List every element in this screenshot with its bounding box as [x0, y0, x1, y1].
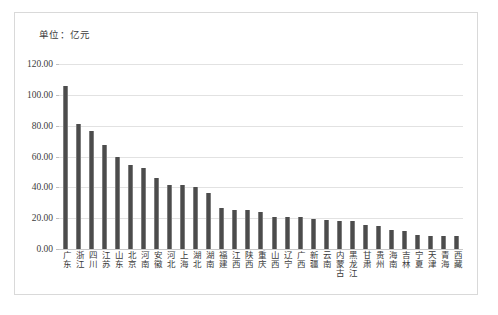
- bar[interactable]: [454, 236, 459, 249]
- x-axis-label: 上海: [179, 251, 188, 269]
- x-axis-label: 吉林: [400, 251, 409, 269]
- bar[interactable]: [206, 193, 211, 249]
- x-label-slot: 河南: [137, 251, 150, 269]
- x-label-slot: 青海: [437, 251, 450, 269]
- bar-slot: [202, 64, 215, 249]
- bar-series: [59, 64, 463, 249]
- bar[interactable]: [245, 210, 250, 249]
- bar[interactable]: [102, 145, 107, 249]
- bar-slot: [294, 64, 307, 249]
- bar-slot: [333, 64, 346, 249]
- bar[interactable]: [363, 225, 368, 249]
- x-axis-label: 广东: [61, 251, 70, 269]
- y-tick-label: 20.00: [0, 213, 58, 223]
- bar[interactable]: [311, 219, 316, 249]
- y-tick-label: 80.00: [0, 121, 58, 131]
- bar[interactable]: [63, 86, 68, 249]
- bar[interactable]: [193, 187, 198, 249]
- bar-slot: [359, 64, 372, 249]
- unit-label: 单位：亿元: [39, 27, 91, 41]
- x-label-slot: 宁夏: [411, 251, 424, 269]
- bar-slot: [307, 64, 320, 249]
- bar[interactable]: [128, 165, 133, 249]
- bar[interactable]: [258, 212, 263, 249]
- bar-slot: [398, 64, 411, 249]
- bar-slot: [59, 64, 72, 249]
- bar[interactable]: [76, 124, 81, 249]
- bar[interactable]: [324, 220, 329, 249]
- x-label-slot: 江苏: [98, 251, 111, 269]
- x-label-slot: 四川: [85, 251, 98, 269]
- bar[interactable]: [350, 221, 355, 249]
- bar-slot: [72, 64, 85, 249]
- x-label-slot: 湖南: [202, 251, 215, 269]
- x-label-slot: 甘肃: [359, 251, 372, 269]
- bar-slot: [424, 64, 437, 249]
- bar-slot: [111, 64, 124, 249]
- y-tick-label: 40.00: [0, 182, 58, 192]
- bar[interactable]: [115, 157, 120, 249]
- x-label-slot: 新疆: [307, 251, 320, 269]
- x-axis-label: 湖南: [205, 251, 214, 269]
- x-label-slot: 天津: [424, 251, 437, 269]
- x-label-slot: 山西: [268, 251, 281, 269]
- bar[interactable]: [180, 185, 185, 249]
- x-axis-label: 广西: [296, 251, 305, 269]
- x-label-slot: 西藏: [450, 251, 463, 269]
- bar-slot: [176, 64, 189, 249]
- x-axis-label: 陕西: [244, 251, 253, 269]
- x-axis-label: 云南: [322, 251, 331, 269]
- bar-slot: [137, 64, 150, 249]
- x-label-slot: 福建: [215, 251, 228, 269]
- x-axis-label: 山东: [113, 251, 122, 269]
- y-tick-label: 120.00: [0, 59, 58, 69]
- x-axis-label: 江西: [231, 251, 240, 269]
- bar[interactable]: [219, 208, 224, 249]
- x-axis-labels: 广东浙江四川江苏山东北京河南安徽河北上海湖北湖南福建江西陕西重庆山西辽宁广西新疆…: [59, 251, 463, 307]
- gridline-0: [59, 249, 463, 250]
- bar-slot: [241, 64, 254, 249]
- bar[interactable]: [141, 168, 146, 249]
- bar[interactable]: [441, 236, 446, 249]
- bar[interactable]: [376, 226, 381, 249]
- bar[interactable]: [272, 217, 277, 249]
- x-axis-label: 北京: [126, 251, 135, 269]
- bar-slot: [150, 64, 163, 249]
- x-axis-label: 辽宁: [283, 251, 292, 269]
- bar[interactable]: [389, 230, 394, 249]
- bar-slot: [254, 64, 267, 249]
- x-axis-label: 江苏: [100, 251, 109, 269]
- x-axis-label: 河北: [166, 251, 175, 269]
- bar[interactable]: [298, 217, 303, 249]
- bar[interactable]: [428, 236, 433, 249]
- x-axis-label: 内蒙古: [335, 251, 344, 278]
- x-label-slot: 海南: [385, 251, 398, 269]
- y-tick-label: 0.00: [0, 244, 58, 254]
- bar-slot: [437, 64, 450, 249]
- x-label-slot: 辽宁: [281, 251, 294, 269]
- x-label-slot: 吉林: [398, 251, 411, 269]
- bar-slot: [346, 64, 359, 249]
- y-tick-label: 60.00: [0, 152, 58, 162]
- x-axis-label: 海南: [387, 251, 396, 269]
- bar-slot: [385, 64, 398, 249]
- bar[interactable]: [154, 178, 159, 249]
- bar-slot: [98, 64, 111, 249]
- x-label-slot: 广西: [294, 251, 307, 269]
- x-axis-label: 四川: [87, 251, 96, 269]
- bar[interactable]: [89, 131, 94, 249]
- x-axis-label: 甘肃: [361, 251, 370, 269]
- bar[interactable]: [415, 235, 420, 249]
- x-axis-label: 福建: [218, 251, 227, 269]
- x-label-slot: 重庆: [254, 251, 267, 269]
- bar[interactable]: [232, 210, 237, 249]
- x-axis-label: 山西: [270, 251, 279, 269]
- x-label-slot: 黑龙江: [346, 251, 359, 278]
- bar[interactable]: [337, 221, 342, 249]
- bar-slot: [372, 64, 385, 249]
- bar[interactable]: [285, 217, 290, 249]
- bar[interactable]: [402, 231, 407, 249]
- x-axis-label: 安徽: [152, 251, 161, 269]
- bar-slot: [411, 64, 424, 249]
- bar[interactable]: [167, 185, 172, 249]
